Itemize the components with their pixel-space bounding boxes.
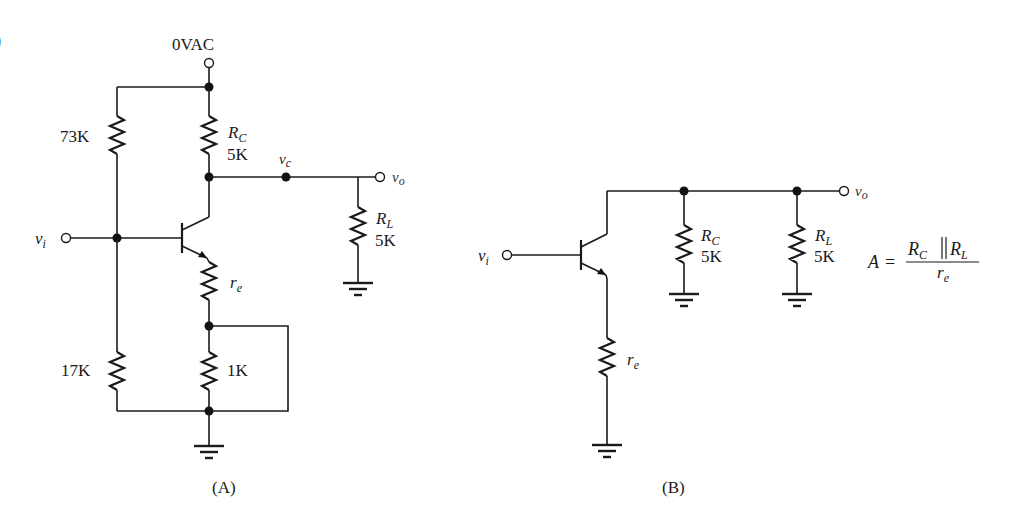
rc-value: 5K: [227, 145, 249, 164]
caption-b: (B): [662, 478, 685, 497]
npn-transistor-a: [182, 177, 209, 258]
rc-label-b: RC: [700, 226, 720, 248]
formula-lhs: A: [867, 252, 880, 272]
ground-icon: [194, 446, 224, 458]
vi-label-a: vi: [35, 229, 46, 251]
formula-equals: =: [885, 252, 895, 272]
resistor-1k: [202, 352, 216, 390]
bypass-wire: [209, 326, 288, 411]
resistor-73k-label: 73K: [60, 127, 90, 146]
resistor-17k-label: 17K: [61, 361, 91, 380]
vc-node: [282, 173, 291, 182]
resistor-rc: [202, 116, 216, 154]
resistor-17k: [110, 352, 124, 390]
caption-a: (A): [212, 478, 236, 497]
circuit-a: 0VAC 73K RC 5K vc vo RL 5K: [35, 35, 405, 497]
rc-value-b: 5K: [701, 247, 723, 266]
vc-label: vc: [279, 151, 292, 170]
rl-label: RL: [375, 209, 393, 231]
resistor-1k-label: 1K: [227, 361, 249, 380]
resistor-rc-b: [677, 225, 691, 263]
resistor-rl: [351, 207, 365, 245]
formula-denominator: re: [937, 263, 950, 285]
resistor-re-a: [202, 262, 216, 300]
wire: [207, 258, 209, 262]
resistor-re-b: [600, 338, 614, 376]
rl-label-b: RL: [814, 226, 832, 248]
rl-value: 5K: [375, 231, 397, 250]
re-label-b: re: [627, 350, 640, 372]
wire: [606, 275, 607, 279]
circuit-b: vi vo RC 5K RL 5K: [478, 183, 868, 497]
rc-label: RC: [227, 123, 247, 145]
re-label-a: re: [230, 273, 243, 295]
input-terminal-b: [503, 251, 512, 260]
vi-label-b: vi: [478, 246, 489, 268]
cropped-edge-glyph: ): [0, 27, 1, 52]
npn-transistor-b: [581, 191, 607, 275]
output-terminal-b: [840, 187, 849, 196]
supply-label: 0VAC: [172, 35, 214, 54]
formula-numerator-left: RC: [907, 239, 928, 262]
resistor-rl-b: [790, 225, 804, 263]
supply-terminal: [205, 59, 214, 68]
gain-formula: A = RC RL re: [867, 237, 979, 285]
vo-label-b: vo: [855, 183, 868, 202]
resistor-73k: [110, 116, 124, 154]
ground-icon: [592, 445, 622, 457]
formula-numerator-right: RL: [949, 239, 968, 262]
ground-icon: [669, 294, 699, 306]
circuit-diagram: ) 0VAC 73K RC 5K vc vo RL 5K: [0, 0, 1011, 525]
ground-icon: [343, 283, 373, 295]
rl-value-b: 5K: [814, 247, 836, 266]
input-terminal-a: [62, 234, 71, 243]
output-terminal-a: [376, 173, 385, 182]
ground-icon: [782, 294, 812, 306]
vo-label-a: vo: [392, 169, 405, 188]
